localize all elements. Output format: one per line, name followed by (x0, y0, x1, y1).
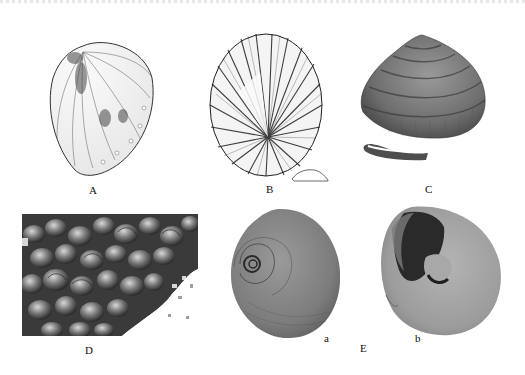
panel-b-drawing (208, 32, 328, 182)
panel-label-d: D (85, 345, 93, 356)
panel-label-e-b: b (415, 333, 421, 344)
panel-label-e: E (360, 343, 367, 354)
panel-label-e-a: a (324, 333, 329, 344)
panel-e-a-photo (228, 207, 340, 339)
cropped-caption-remnant (0, 0, 525, 3)
panel-label-a: A (89, 185, 97, 196)
panel-label-b: B (266, 184, 273, 195)
panel-a-drawing (45, 38, 155, 178)
panel-d-photo (22, 214, 198, 336)
panel-b-side-outline (290, 167, 330, 183)
panel-label-c: C (425, 184, 432, 195)
panel-e-b-photo (372, 205, 502, 337)
panel-c-photo (355, 32, 490, 142)
panel-c-lip (362, 140, 432, 162)
